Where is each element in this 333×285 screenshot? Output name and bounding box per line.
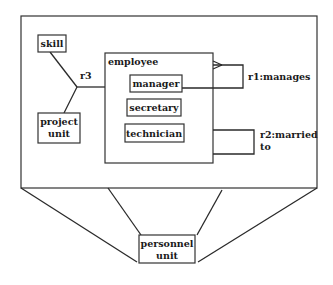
- skill-label: skill: [41, 38, 64, 49]
- expansion-line-inner-right: [197, 190, 222, 235]
- entity-technician[interactable]: technician: [125, 124, 184, 142]
- personnel-unit-label-line1: personnel: [141, 238, 194, 249]
- entity-skill[interactable]: skill: [38, 35, 66, 52]
- project-unit-label-line1: project: [40, 116, 78, 127]
- secretary-label: secretary: [129, 102, 179, 113]
- entity-personnel-unit[interactable]: personnel unit: [139, 235, 195, 263]
- expansion-line-right: [198, 188, 317, 262]
- r1-label: r1:manages: [248, 71, 310, 82]
- entity-secretary[interactable]: secretary: [127, 99, 181, 116]
- r2-label-line2: to: [260, 141, 271, 152]
- expansion-line-inner-left: [108, 188, 141, 235]
- employee-label: employee: [108, 56, 158, 67]
- er-diagram: r3 skill project unit employee r1:manage…: [0, 0, 333, 285]
- technician-label: technician: [126, 128, 182, 139]
- project-unit-label-line2: unit: [48, 128, 70, 139]
- manager-label: manager: [133, 78, 181, 89]
- entity-project-unit[interactable]: project unit: [38, 113, 80, 143]
- r2-label-line1: r2:married: [260, 129, 318, 140]
- r3-label: r3: [80, 70, 92, 81]
- expansion-line-left: [21, 188, 137, 262]
- personnel-unit-label-line2: unit: [156, 250, 178, 261]
- entity-manager[interactable]: manager: [130, 75, 182, 92]
